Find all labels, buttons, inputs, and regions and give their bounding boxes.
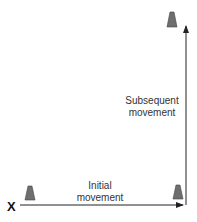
initial-label-line1: Initial xyxy=(70,180,130,192)
cone-top-icon xyxy=(167,12,177,27)
cone-corner-icon xyxy=(173,185,183,199)
subsequent-label-line1: Subsequent xyxy=(120,95,184,107)
initial-label-line2: movement xyxy=(70,192,130,204)
initial-movement-label: Initial movement xyxy=(70,180,130,204)
subsequent-movement-label: Subsequent movement xyxy=(120,95,184,119)
start-marker: X xyxy=(7,199,16,214)
subsequent-label-line2: movement xyxy=(120,107,184,119)
cone-start-icon xyxy=(25,186,35,200)
